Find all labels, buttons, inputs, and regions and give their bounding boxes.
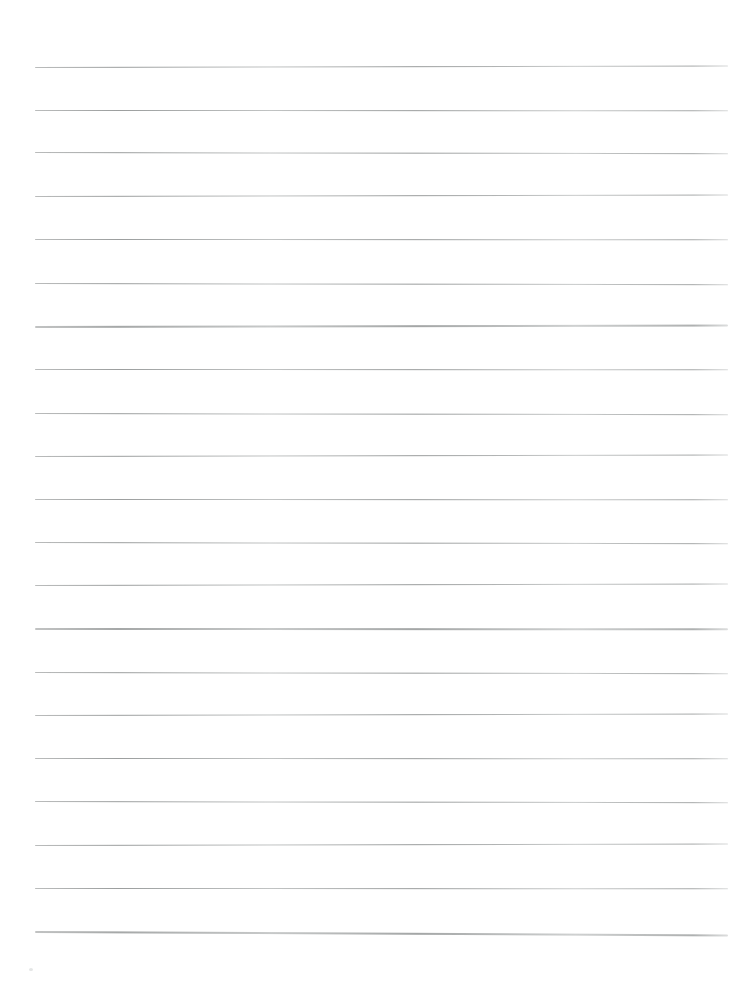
rule-line	[35, 283, 728, 286]
rule-line	[35, 758, 728, 760]
rule-line	[35, 413, 728, 416]
rule-line	[35, 542, 728, 545]
rule-line	[35, 239, 728, 241]
rule-line	[35, 152, 728, 155]
rule-lines	[0, 0, 750, 985]
scan-speck	[29, 968, 33, 971]
rule-line	[35, 888, 728, 890]
rule-line	[35, 584, 728, 587]
rule-line	[35, 931, 728, 936]
rule-line	[35, 369, 728, 371]
notebook-page	[0, 0, 750, 985]
rule-line	[35, 325, 728, 328]
rule-line	[35, 801, 728, 804]
rule-line	[35, 110, 728, 112]
rule-line	[35, 628, 728, 630]
rule-line	[35, 455, 728, 458]
rule-line	[35, 499, 728, 501]
rule-line	[35, 66, 728, 69]
rule-line	[35, 844, 728, 847]
rule-line	[35, 195, 728, 198]
rule-line	[35, 672, 728, 675]
rule-line	[35, 714, 728, 717]
